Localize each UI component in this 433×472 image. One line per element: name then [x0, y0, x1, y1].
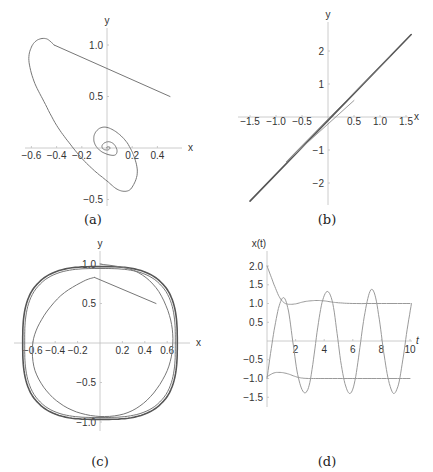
x-tick-label: −0.2	[68, 345, 88, 356]
chart-b-phase-portrait: −1.5−1.0−0.50.51.01.5−2−112xy	[216, 0, 433, 235]
x-axis-label: t	[416, 335, 420, 346]
y-tick-label: 2	[318, 46, 324, 57]
y-tick-label: 2.0	[249, 261, 263, 272]
chart-c-limit-cycle: −0.6−0.4−0.20.20.40.6−1.0−0.50.51.0xy	[0, 235, 216, 472]
y-axis-label: y	[326, 9, 331, 20]
x-tick-label: 1.0	[373, 116, 387, 127]
y-tick-label: 0.5	[82, 298, 96, 309]
chart-a-phase-portrait: −0.6−0.4−0.20.20.4−0.50.51.0xy	[0, 0, 216, 235]
y-tick-label: 1.0	[249, 298, 263, 309]
x-tick-label: −0.4	[45, 345, 65, 356]
x-tick-label: −1.5	[240, 116, 260, 127]
decaying-lower-curve	[267, 372, 410, 378]
x-tick-label: 0.5	[347, 116, 361, 127]
x-tick-label: −1.0	[266, 116, 286, 127]
transient-curve	[32, 264, 173, 417]
caption-d: (d)	[318, 454, 336, 469]
y-tick-label: 1.5	[249, 279, 263, 290]
x-tick-label: 0.4	[138, 345, 152, 356]
y-tick-label: 0.5	[249, 317, 263, 328]
y-tick-label: −1.5	[243, 392, 263, 403]
chart-d-time-series: 246810−1.5−1.0−0.50.51.01.52.0tx(t)	[216, 235, 433, 472]
y-tick-label: −1.0	[243, 373, 263, 384]
x-axis-label: x	[188, 142, 193, 153]
x-tick-label: 0.2	[115, 345, 129, 356]
panel-d: 246810−1.5−1.0−0.50.51.01.52.0tx(t) (d)	[216, 235, 433, 472]
panel-b: −1.5−1.0−0.50.51.01.5−2−112xy (b)	[216, 0, 433, 235]
panel-c: −0.6−0.4−0.20.20.40.6−1.0−0.50.51.0xy (c…	[0, 235, 216, 472]
x-tick-label: 6	[350, 344, 356, 355]
y-tick-label: −0.5	[76, 377, 96, 388]
trajectory-line	[54, 45, 170, 97]
y-axis-label: x(t)	[252, 238, 266, 249]
x-tick-label: −0.5	[292, 116, 312, 127]
caption-b: (b)	[318, 212, 336, 227]
x-tick-label: −0.2	[72, 150, 92, 161]
x-tick-label: 0.4	[150, 150, 164, 161]
y-tick-label: −1	[313, 145, 325, 156]
y-tick-label: 1.0	[89, 40, 103, 51]
y-tick-label: −0.5	[243, 354, 263, 365]
x-tick-label: 4	[321, 344, 327, 355]
y-tick-label: 1.0	[82, 259, 96, 270]
x-tick-label: −0.4	[47, 150, 67, 161]
trajectory-mid-line	[286, 56, 390, 162]
y-tick-label: 1	[318, 79, 324, 90]
caption-c: (c)	[91, 454, 108, 469]
y-axis-label: y	[105, 15, 110, 26]
caption-a: (a)	[84, 212, 102, 227]
x-axis-label: x	[414, 111, 419, 122]
x-tick-label: −0.6	[22, 150, 42, 161]
x-tick-label: 10	[404, 344, 416, 355]
y-axis-label: y	[98, 238, 103, 249]
x-tick-label: −0.6	[23, 345, 43, 356]
x-tick-label: 1.5	[399, 116, 413, 127]
y-tick-label: −2	[313, 178, 325, 189]
x-axis-label: x	[196, 337, 201, 348]
transient-line	[94, 277, 156, 303]
trajectory-spiral	[29, 38, 138, 191]
y-tick-label: 0.5	[89, 91, 103, 102]
panel-a: −0.6−0.4−0.20.20.4−0.50.51.0xy (a)	[0, 0, 216, 235]
decaying-upper-curve	[267, 266, 410, 304]
y-tick-label: −0.5	[83, 194, 103, 205]
